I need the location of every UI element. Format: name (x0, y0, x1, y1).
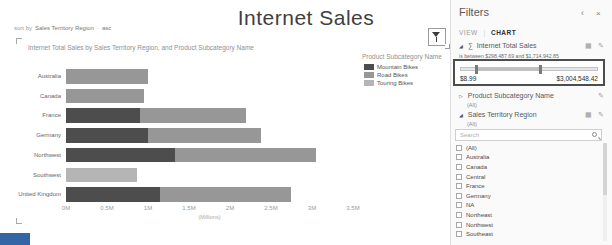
filter-item-label: Canada (466, 164, 487, 170)
slider-handle-high[interactable] (539, 65, 542, 74)
checkbox[interactable] (456, 154, 462, 160)
filter-section-sales-territory[interactable]: ◢ Sales Territory Region (459, 111, 537, 118)
filter-list-item[interactable]: Southeast (456, 229, 596, 239)
bar-segment-road-bikes[interactable] (160, 187, 291, 202)
bar-segment-road-bikes[interactable] (140, 108, 247, 123)
filter-list-item[interactable]: Germany (456, 191, 596, 201)
filter-item-label: Southeast (466, 231, 493, 237)
category-label: Northwest (34, 148, 61, 163)
checkbox[interactable] (456, 231, 462, 237)
expander-open-icon[interactable]: ◢ (459, 112, 463, 118)
range-slider[interactable] (460, 67, 598, 71)
x-tick: 2.5M (264, 205, 277, 211)
filter-field-name: Product Subcategory Name (468, 92, 554, 99)
legend-label: Touring Bikes (377, 80, 413, 86)
search-icon (592, 132, 597, 137)
bar-row[interactable]: France (66, 108, 353, 123)
legend-swatch (364, 64, 374, 70)
legend-item[interactable]: Touring Bikes (362, 79, 442, 87)
slider-handle-low[interactable] (475, 65, 478, 74)
x-tick: 2M (226, 205, 234, 211)
x-tick: 1M (144, 205, 152, 211)
collapse-panel-icon[interactable]: ‹ (581, 9, 584, 18)
filter-tabs: VIEW | CHART (459, 29, 516, 36)
checkbox[interactable] (456, 164, 462, 170)
edit-filter-icon[interactable]: ✎ (598, 42, 604, 50)
bar-segment-mountain-bikes[interactable] (66, 148, 175, 163)
checkbox[interactable] (456, 193, 462, 199)
sort-order[interactable]: asc (102, 25, 111, 31)
bar-segment-touring-bikes[interactable] (66, 168, 137, 183)
bar-row[interactable]: Southwest (66, 168, 353, 183)
category-label: Southwest (33, 168, 61, 183)
bar-segment-road-bikes[interactable] (66, 89, 144, 104)
bar-segment-road-bikes[interactable] (66, 69, 148, 84)
filter-section-internet-total-sales[interactable]: ◢ ∑ Internet Total Sales (459, 42, 537, 49)
checkbox[interactable] (456, 222, 462, 228)
filter-list-item[interactable]: Northwest (456, 220, 596, 230)
filter-list-item[interactable]: France (456, 181, 596, 191)
x-axis: 0M0.5M1M1.5M2M2.5M3M3.5M (66, 205, 353, 213)
x-axis-unit-label: (Millions) (66, 214, 353, 220)
sigma-icon: ∑ (468, 42, 473, 49)
bar-row[interactable]: Canada (66, 89, 353, 104)
bar-segment-road-bikes[interactable] (175, 148, 316, 163)
filter-list-item[interactable]: Canada (456, 162, 596, 172)
bar-segment-mountain-bikes[interactable] (66, 108, 140, 123)
chart-title: Internet Total Sales by Sales Territory … (28, 44, 254, 51)
filter-list-item[interactable]: Central (456, 172, 596, 182)
filter-field-name: Internet Total Sales (477, 42, 537, 49)
slider-range-fill (475, 68, 539, 70)
filter-item-label: Northwest (466, 222, 493, 228)
filter-list-item[interactable]: NA (456, 201, 596, 211)
bar-row[interactable]: Australia (66, 69, 353, 84)
bar-row[interactable]: Northwest (66, 148, 353, 163)
filter-list-item[interactable]: (All) (456, 143, 596, 153)
list-scrollbar[interactable] (603, 143, 607, 241)
range-filter-box: $8.99 $3,004,548.42 (453, 59, 605, 86)
checkbox[interactable] (456, 174, 462, 180)
expander-open-icon[interactable]: ◢ (459, 43, 463, 49)
filter-item-label: NA (466, 202, 474, 208)
list-mode-icon[interactable]: ▦ (585, 111, 592, 119)
edit-filter-icon[interactable]: ✎ (598, 92, 604, 100)
list-mode-icon[interactable]: ▦ (585, 42, 592, 50)
category-label: France (42, 108, 61, 123)
sort-separator: · (97, 25, 99, 31)
category-label: Germany (36, 128, 61, 143)
checkbox[interactable] (456, 212, 462, 218)
filter-section-product-subcategory[interactable]: ▷ Product Subcategory Name (459, 92, 554, 99)
report-window: Internet Sales sort bySales Territory Re… (0, 0, 612, 245)
sort-bar[interactable]: sort bySales Territory Region·asc (14, 25, 111, 31)
legend-item[interactable]: Mountain Bikes (362, 63, 442, 71)
checkbox[interactable] (456, 202, 462, 208)
bar-row[interactable]: Germany (66, 128, 353, 143)
filter-list-item[interactable]: Northeast (456, 210, 596, 220)
bar-segment-mountain-bikes[interactable] (66, 128, 148, 143)
filter-list-item[interactable]: Australia (456, 153, 596, 163)
range-min-value: $8.99 (460, 75, 476, 82)
territory-search-box (455, 129, 602, 141)
checkbox[interactable] (456, 183, 462, 189)
bar-row[interactable]: United Kingdom (66, 187, 353, 202)
category-label: Australia (38, 69, 61, 84)
filter-item-label: Northeast (466, 212, 492, 218)
funnel-icon-stem (436, 37, 438, 42)
bar-segment-road-bikes[interactable] (148, 128, 261, 143)
scrollbar-thumb[interactable] (603, 143, 607, 195)
filters-panel-title: Filters (459, 6, 489, 18)
tab-view[interactable]: VIEW (459, 29, 478, 36)
search-input[interactable] (458, 130, 588, 140)
tab-chart[interactable]: CHART (491, 29, 516, 36)
legend-item[interactable]: Road Bikes (362, 71, 442, 79)
close-panel-icon[interactable]: × (596, 9, 601, 18)
tab-separator: | (483, 29, 485, 36)
edit-filter-icon[interactable]: ✎ (598, 111, 604, 119)
expander-closed-icon[interactable]: ▷ (459, 93, 463, 99)
sort-field[interactable]: Sales Territory Region (35, 25, 94, 31)
checkbox[interactable] (456, 145, 462, 151)
territory-current-value: (All) (467, 121, 477, 127)
filter-flyout-button[interactable] (428, 28, 446, 46)
bar-segment-mountain-bikes[interactable] (66, 187, 160, 202)
selection-corner-top-left (16, 38, 22, 44)
